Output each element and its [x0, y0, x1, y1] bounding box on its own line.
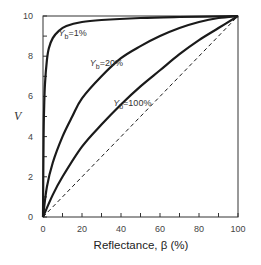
y-tick-label: 4: [28, 132, 33, 142]
x-tick-label: 80: [194, 224, 204, 234]
y-tick-label: 8: [28, 51, 33, 61]
x-tick-label: 60: [155, 224, 165, 234]
curve-labels: Yb=1%Yb=20%Yb=100%: [59, 28, 152, 110]
curve-label: Yb=100%: [113, 98, 151, 110]
curves: [43, 16, 238, 217]
axis-ticks: 0204060801000246810: [23, 11, 246, 234]
y-tick-label: 2: [28, 172, 33, 182]
x-tick-label: 0: [40, 224, 45, 234]
x-tick-label: 20: [77, 224, 87, 234]
x-axis-title: Reflectance, β (%): [94, 239, 189, 251]
x-tick-label: 40: [116, 224, 126, 234]
curve-label: Yb=1%: [59, 28, 87, 40]
x-tick-label: 100: [230, 224, 245, 234]
y-tick-label: 0: [28, 212, 33, 222]
curve-label: Yb=20%: [90, 58, 123, 70]
y-axis-title: V: [14, 109, 23, 123]
chart: 0204060801000246810 Yb=1%Yb=20%Yb=100% V…: [0, 0, 261, 265]
y-tick-label: 6: [28, 91, 33, 101]
y-tick-label: 10: [23, 11, 33, 21]
